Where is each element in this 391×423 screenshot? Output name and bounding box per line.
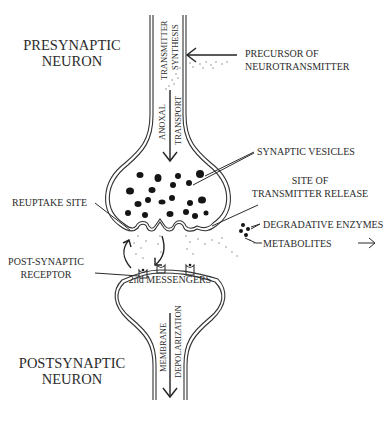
synaptic-vesicles-label: SYNAPTIC VESICLES <box>257 146 355 157</box>
receptor-label-1: POST-SYNAPTIC <box>8 256 84 267</box>
precursor-arrow <box>187 48 237 62</box>
presynaptic-label-1: PRESYNAPTIC <box>23 37 121 53</box>
synapse-diagram: PRESYNAPTIC NEURON POSTSYNAPTIC NEURON T… <box>0 0 391 423</box>
leader-lines <box>95 152 375 276</box>
transmitter-stipple <box>133 235 237 258</box>
second-messengers-label: 2nd MESSENGERS <box>129 274 212 285</box>
depolarization-label: DEPOLARIZATION <box>173 305 183 378</box>
synaptic-vesicles <box>125 170 209 219</box>
anoxal-label: ANOXAL <box>157 104 167 140</box>
postsynaptic-label-1: POSTSYNAPTIC <box>19 355 125 371</box>
reuptake-site-label: REUPTAKE SITE <box>12 197 87 208</box>
metabolites-label: METABOLITES <box>263 238 332 249</box>
release-site-label-1: SITE OF <box>292 175 329 186</box>
reuptake-arrow <box>123 240 131 268</box>
presynaptic-label-2: NEURON <box>42 53 103 69</box>
precursor-label-1: PRECURSOR OF <box>245 48 319 59</box>
precursor-label-2: NEUROTRANSMITTER <box>245 61 350 72</box>
transport-label: TRANSPORT <box>173 95 183 145</box>
postsynaptic-label-2: NEURON <box>42 371 103 387</box>
synthesis-label: SYNTHESIS <box>170 24 180 70</box>
release-arrow <box>155 236 164 265</box>
release-site-label-2: TRANSMITTER RELEASE <box>252 188 368 199</box>
transmitter-label: TRANSMITTER <box>159 20 169 80</box>
degradative-enzymes-label: DEGRADATIVE ENZYMES <box>263 219 383 230</box>
membrane-label: MEMBRANE <box>158 323 168 372</box>
receptor-label-2: RECEPTOR <box>21 269 72 280</box>
